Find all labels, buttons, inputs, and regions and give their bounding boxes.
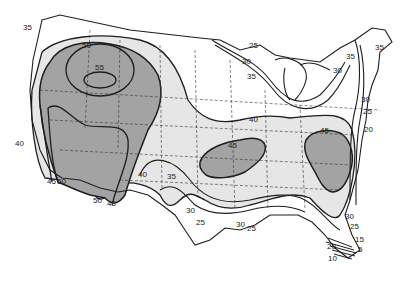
contour-label: 25 bbox=[247, 225, 256, 233]
contour-label: 45 bbox=[228, 142, 237, 150]
contour-label: 30 bbox=[361, 96, 370, 104]
contour-label: 25 bbox=[363, 108, 372, 116]
contour-label: 35 bbox=[167, 173, 176, 181]
contour-label: 35 bbox=[247, 73, 256, 81]
contour-label: 10 bbox=[328, 255, 337, 263]
contour-label: 50 bbox=[57, 178, 66, 186]
contour-label: 50 bbox=[82, 42, 91, 50]
contour-label: 55 bbox=[95, 64, 104, 72]
contour-label: 40 bbox=[138, 171, 147, 179]
contour-label: 35 bbox=[23, 24, 32, 32]
contour-label: 45 bbox=[107, 200, 116, 208]
contour-label: 25 bbox=[196, 219, 205, 227]
contour-label: 35 bbox=[346, 53, 355, 61]
contour-label: 35 bbox=[375, 44, 384, 52]
contour-label: 30 bbox=[242, 58, 251, 66]
contour-label: 30 bbox=[186, 207, 195, 215]
contour-label: 40 bbox=[15, 140, 24, 148]
contour-label: 30 bbox=[333, 67, 342, 75]
contour-label: 25 bbox=[350, 223, 359, 231]
contour-label: 20 bbox=[327, 243, 336, 251]
contour-label: 45 bbox=[320, 127, 329, 135]
contour-label: 15 bbox=[355, 236, 364, 244]
contour-label: 25 bbox=[249, 42, 258, 50]
contour-label: 20 bbox=[364, 126, 373, 134]
contour-label: 40 bbox=[249, 116, 258, 124]
contour-label: 45 bbox=[47, 178, 56, 186]
contour-label: 30 bbox=[345, 213, 354, 221]
contour-label: 50 bbox=[93, 197, 102, 205]
contour-label: 30 bbox=[236, 221, 245, 229]
contour-label: 5 bbox=[358, 246, 362, 254]
